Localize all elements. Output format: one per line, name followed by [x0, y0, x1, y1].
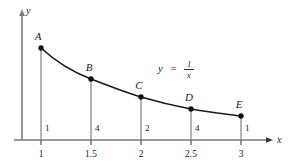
point-label-a: A	[34, 30, 42, 42]
point-label-c: C	[135, 79, 143, 91]
x-tick-label-2: 1.5	[85, 149, 97, 159]
weight-label-c: 2	[145, 123, 150, 133]
x-axis-arrowhead	[266, 137, 273, 143]
y-axis	[19, 9, 25, 140]
x-tick-label-4: 2.5	[185, 149, 197, 159]
data-point-a	[38, 45, 43, 50]
weight-label-d: 4	[195, 123, 200, 133]
equation-annotation: y = 1 x	[157, 59, 194, 80]
equation-equals: =	[170, 63, 177, 74]
point-label-d: D	[184, 91, 193, 103]
equation-denominator: x	[186, 70, 191, 80]
simpsons-rule-diagram: y x A B C D E 1 4 2 4 1 1	[0, 0, 289, 165]
data-point-e	[238, 113, 243, 118]
x-axis	[14, 137, 273, 143]
data-point-d	[188, 106, 193, 111]
point-label-e: E	[235, 98, 243, 110]
data-point-c	[138, 94, 143, 99]
y-axis-label: y	[25, 5, 31, 16]
x-tick-label-1: 1	[39, 149, 44, 159]
x-tick-label-3: 2	[139, 149, 144, 159]
equation-numerator: 1	[187, 59, 191, 69]
weight-label-e: 1	[245, 123, 250, 133]
equation-lhs: y	[157, 63, 163, 74]
x-axis-label: x	[276, 134, 282, 145]
data-point-b	[88, 76, 93, 81]
point-label-b: B	[86, 61, 93, 73]
y-axis-arrowhead	[19, 9, 25, 16]
weight-label-b: 4	[95, 123, 100, 133]
weight-label-a: 1	[45, 123, 50, 133]
figure-container: y x A B C D E 1 4 2 4 1 1	[0, 0, 289, 165]
x-tick-label-5: 3	[239, 149, 244, 159]
